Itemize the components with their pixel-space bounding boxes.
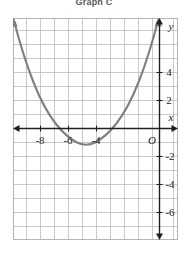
y-tick-label-minus4: -4 <box>165 178 175 190</box>
figure-title: Graph C <box>0 0 188 8</box>
x-tick-label-minus8: -8 <box>35 134 45 146</box>
y-tick-label-minus6: -6 <box>165 206 175 218</box>
y-tick-label-2: 2 <box>166 94 172 106</box>
x-axis-label: x <box>168 111 174 123</box>
y-axis-label: y <box>168 20 174 32</box>
origin-label: O <box>148 134 156 146</box>
x-tick-label-minus4: -4 <box>91 134 101 146</box>
y-tick-label-4: 4 <box>166 66 172 78</box>
graph-figure: Graph C <box>0 0 188 258</box>
coordinate-plane: -8 -6 -4 4 2 -2 -4 -6 O x y <box>13 18 178 240</box>
x-tick-label-minus6: -6 <box>63 134 73 146</box>
graph-svg: -8 -6 -4 4 2 -2 -4 -6 O x y <box>13 18 178 240</box>
y-tick-label-minus2: -2 <box>165 150 174 162</box>
